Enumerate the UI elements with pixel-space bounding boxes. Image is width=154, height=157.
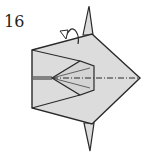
origami-diagram <box>0 0 154 157</box>
top-spike <box>83 6 93 35</box>
bottom-spike <box>84 123 94 151</box>
